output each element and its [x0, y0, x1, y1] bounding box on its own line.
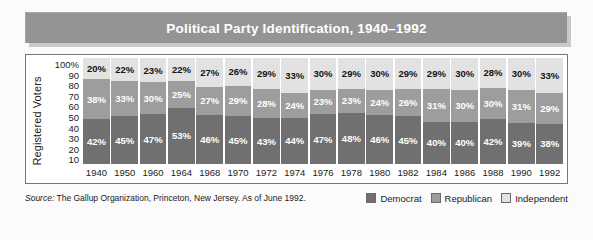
bar-segment-value: 24%	[285, 100, 304, 111]
legend-item-democrat[interactable]: Democrat	[366, 193, 421, 204]
bar-column[interactable]: 20%38%42%	[83, 58, 110, 164]
legend-item-independent[interactable]: Independent	[501, 193, 568, 204]
bar-column[interactable]: 33%24%44%	[281, 58, 308, 164]
bar-segment-republican: 31%	[508, 90, 535, 123]
x-axis-year-label: 1988	[480, 167, 507, 178]
bar-column[interactable]: 22%33%45%	[111, 58, 138, 164]
bar-segment-value: 43%	[257, 136, 276, 147]
source-text: The Gallup Organization, Princeton, New …	[54, 193, 306, 203]
chart-frame: Registered Voters 100%908070605040302010…	[25, 54, 568, 184]
legend: DemocratRepublicanIndependent	[366, 193, 568, 204]
legend-item-republican[interactable]: Republican	[431, 193, 493, 204]
x-axis-year-label: 1972	[253, 167, 280, 178]
bar-segment-republican: 33%	[111, 81, 138, 116]
bar-segment-republican: 25%	[168, 81, 195, 108]
chart-footer: Source: The Gallup Organization, Princet…	[25, 190, 568, 206]
legend-swatch-icon	[501, 193, 511, 203]
bar-segment-value: 26%	[229, 66, 248, 77]
y-axis-tick: 100%	[55, 60, 79, 71]
bar-column[interactable]: 29%28%43%	[253, 58, 280, 164]
bar-segment-value: 28%	[484, 67, 503, 78]
bar-segment-value: 30%	[370, 68, 389, 79]
bar-segment-value: 31%	[427, 100, 446, 111]
bar-segment-republican: 27%	[196, 87, 223, 116]
bar-segment-value: 30%	[484, 98, 503, 109]
bar-segment-independent: 29%	[423, 58, 450, 89]
bar-column[interactable]: 30%24%46%	[366, 58, 393, 164]
bar-segment-value: 22%	[172, 64, 191, 75]
bar-segment-value: 38%	[540, 138, 559, 149]
x-axis-year-label: 1970	[225, 167, 252, 178]
bar-segment-democrat: 38%	[536, 124, 563, 164]
legend-swatch-icon	[431, 193, 441, 203]
x-axis-year-label: 1978	[338, 167, 365, 178]
bar-segment-independent: 33%	[281, 58, 308, 93]
x-axis-year-label: 1968	[196, 167, 223, 178]
bar-segment-independent: 22%	[168, 58, 195, 81]
source-note: Source: The Gallup Organization, Princet…	[25, 193, 306, 203]
bar-segment-value: 28%	[257, 98, 276, 109]
bar-segment-value: 40%	[455, 137, 474, 148]
bar-column[interactable]: 26%29%45%	[225, 58, 252, 164]
bar-column[interactable]: 30%30%40%	[451, 58, 478, 164]
bar-column[interactable]: 29%31%40%	[423, 58, 450, 164]
bar-column[interactable]: 23%30%47%	[140, 58, 167, 164]
bar-column[interactable]: 30%23%47%	[310, 58, 337, 164]
bar-segment-republican: 30%	[451, 90, 478, 122]
bar-segment-republican: 23%	[338, 89, 365, 113]
bar-column[interactable]: 29%26%45%	[395, 58, 422, 164]
bar-segment-republican: 24%	[281, 93, 308, 118]
bar-segment-value: 42%	[87, 136, 106, 147]
bar-segment-value: 26%	[399, 97, 418, 108]
bar-segment-value: 31%	[512, 101, 531, 112]
bar-column[interactable]: 22%25%53%	[168, 58, 195, 164]
bar-segment-value: 24%	[370, 97, 389, 108]
bar-segment-value: 23%	[144, 65, 163, 76]
bar-segment-value: 23%	[342, 95, 361, 106]
bar-segment-republican: 30%	[140, 82, 167, 114]
bar-segment-republican: 29%	[536, 93, 563, 124]
bar-column[interactable]: 33%29%38%	[536, 58, 563, 164]
bar-segment-republican: 28%	[253, 89, 280, 119]
bar-segment-independent: 33%	[536, 58, 563, 93]
bar-segment-value: 33%	[115, 93, 134, 104]
legend-swatch-icon	[366, 193, 376, 203]
bar-segment-republican: 24%	[366, 90, 393, 115]
bar-segment-value: 38%	[87, 94, 106, 105]
bar-column[interactable]: 29%23%48%	[338, 58, 365, 164]
bar-segment-value: 30%	[455, 100, 474, 111]
x-axis-year-label: 1974	[281, 167, 308, 178]
bar-segment-democrat: 47%	[140, 114, 167, 164]
bar-segment-democrat: 40%	[423, 122, 450, 164]
legend-label: Democrat	[380, 193, 421, 204]
bar-column[interactable]: 27%27%46%	[196, 58, 223, 164]
x-axis-year-label: 1990	[508, 167, 535, 178]
x-axis-year-label: 1976	[310, 167, 337, 178]
bar-segment-republican: 23%	[310, 90, 337, 114]
bar-column[interactable]: 28%30%42%	[480, 58, 507, 164]
bar-column[interactable]: 30%31%39%	[508, 58, 535, 164]
x-axis-year-label: 1992	[536, 167, 563, 178]
bar-segment-independent: 30%	[366, 58, 393, 90]
bar-segment-value: 33%	[285, 70, 304, 81]
x-axis-year-label: 1980	[366, 167, 393, 178]
bar-segment-value: 29%	[427, 68, 446, 79]
page-title: Political Party Identification, 1940–199…	[166, 21, 426, 36]
y-axis: Registered Voters 100%908070605040302010	[26, 55, 83, 183]
bar-segment-democrat: 42%	[83, 119, 110, 164]
bar-segment-value: 29%	[540, 103, 559, 114]
bar-segment-republican: 38%	[83, 79, 110, 119]
bar-segment-value: 45%	[399, 135, 418, 146]
bar-segment-value: 23%	[314, 96, 333, 107]
bar-segment-independent: 30%	[310, 58, 337, 90]
bar-segment-value: 25%	[172, 89, 191, 100]
bar-segment-value: 47%	[314, 134, 333, 145]
bar-segment-republican: 30%	[480, 88, 507, 120]
bar-segment-value: 45%	[115, 135, 134, 146]
x-axis-year-labels: 1940195019601964196819701972197419761978…	[83, 164, 563, 181]
bar-segment-republican: 29%	[225, 86, 252, 117]
bar-segment-value: 30%	[512, 68, 531, 79]
bar-segment-value: 27%	[200, 67, 219, 78]
bar-segment-democrat: 46%	[366, 115, 393, 164]
bar-segment-democrat: 44%	[281, 118, 308, 164]
